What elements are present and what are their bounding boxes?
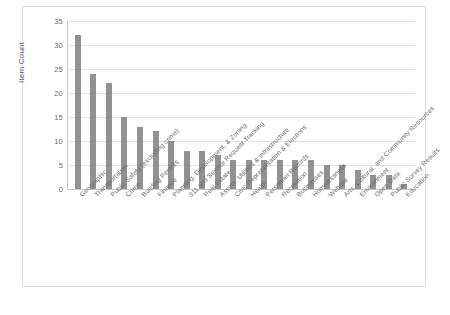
x-label-slot: Education bbox=[396, 191, 412, 287]
x-label-slot: 311 and Service Request Tracking bbox=[179, 191, 195, 287]
bar-slot bbox=[381, 21, 397, 189]
x-label-slot: Assets, Utilities & Infrastructure bbox=[210, 191, 226, 287]
x-label-slot: Transportation bbox=[86, 191, 102, 287]
x-label-slot: Website bbox=[319, 191, 335, 287]
bar-slot bbox=[101, 21, 117, 189]
bar-slot bbox=[396, 21, 412, 189]
x-label-slot: Arts, Cultural, and Community Resources bbox=[334, 191, 350, 287]
bar-slot bbox=[86, 21, 102, 189]
x-label-slot: Real Estate bbox=[194, 191, 210, 287]
y-axis-tick: 35 bbox=[54, 17, 63, 26]
plot-area bbox=[67, 21, 415, 189]
y-axis-tick: 15 bbox=[54, 113, 63, 122]
y-axis-tick: 25 bbox=[54, 65, 63, 74]
chart-frame: Item Count 05101520253035 GeographicTran… bbox=[22, 6, 426, 287]
x-label-slot: Geographic bbox=[70, 191, 86, 287]
y-axis-tick: 20 bbox=[54, 89, 63, 98]
bar-series bbox=[67, 21, 415, 189]
x-label-slot: Health bbox=[241, 191, 257, 287]
bar-slot bbox=[303, 21, 319, 189]
y-axis-tick: 30 bbox=[54, 41, 63, 50]
bar-slot bbox=[319, 21, 335, 189]
bar-slot bbox=[70, 21, 86, 189]
y-axis-tick-labels: 05101520253035 bbox=[37, 21, 63, 189]
x-label-slot: Public Survey Results bbox=[381, 191, 397, 287]
bar-slot bbox=[272, 21, 288, 189]
x-label-slot: Open Data bbox=[365, 191, 381, 287]
bar-slot bbox=[148, 21, 164, 189]
x-label-slot: Public Safety (excluding crime) bbox=[101, 191, 117, 287]
bar-slot bbox=[225, 21, 241, 189]
y-axis-title: Item Count bbox=[17, 42, 26, 83]
y-axis-tick: 10 bbox=[54, 137, 63, 146]
bar[interactable] bbox=[75, 35, 81, 189]
y-axis-tick: 0 bbox=[59, 185, 63, 194]
bar[interactable] bbox=[90, 74, 96, 189]
x-label-slot: Personnel Records bbox=[257, 191, 273, 287]
x-label-slot: Building Permits bbox=[132, 191, 148, 287]
x-label-slot: Finance bbox=[148, 191, 164, 287]
bar-slot bbox=[350, 21, 366, 189]
y-axis-tick: 5 bbox=[59, 161, 63, 170]
x-label-slot: Crime bbox=[117, 191, 133, 287]
x-label-slot: Recreation bbox=[272, 191, 288, 287]
x-label-slot: Homelessness bbox=[303, 191, 319, 287]
x-label-slot: Environment bbox=[350, 191, 366, 287]
x-label-slot: Businesses bbox=[288, 191, 304, 287]
bar-slot bbox=[179, 21, 195, 189]
x-label-slot: Planning, Development, & Zoning bbox=[163, 191, 179, 287]
x-axis-tick-labels: GeographicTransportationPublic Safety (e… bbox=[67, 191, 415, 287]
x-label-slot: Civic Representation & Elections bbox=[225, 191, 241, 287]
bar[interactable] bbox=[137, 127, 143, 189]
